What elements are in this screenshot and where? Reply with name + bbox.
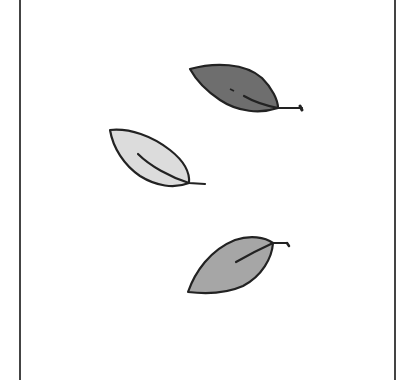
leaves-illustration (0, 0, 405, 380)
leaf-dark (190, 65, 302, 111)
leaf-medium (188, 237, 289, 293)
leaf-light (110, 130, 205, 186)
